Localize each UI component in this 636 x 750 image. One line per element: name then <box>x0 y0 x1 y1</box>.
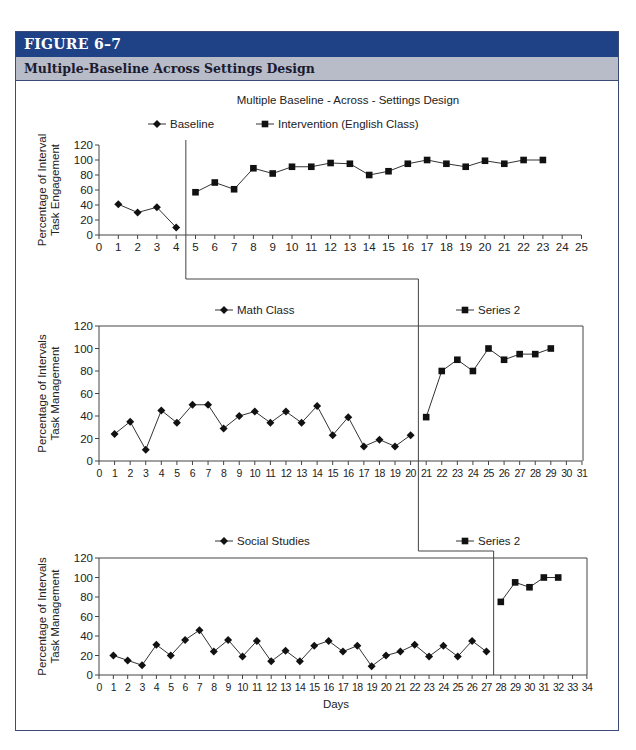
legend-diamond-icon <box>220 537 228 545</box>
x-tick-label: 10 <box>237 681 248 693</box>
data-point-marker <box>385 168 392 175</box>
x-tick-label: 26 <box>467 681 478 693</box>
x-tick-label: 9 <box>237 467 243 479</box>
data-point-marker <box>325 637 333 645</box>
x-tick-label: 22 <box>517 241 530 253</box>
data-point-marker <box>375 436 383 444</box>
legend-diamond-icon <box>153 120 161 128</box>
x-tick-label: 0 <box>96 241 102 253</box>
x-tick-label: 32 <box>553 681 564 693</box>
data-point-marker <box>498 599 505 606</box>
x-tick-label: 24 <box>438 681 449 693</box>
x-tick-label: 17 <box>338 681 349 693</box>
x-tick-label: 24 <box>556 241 569 253</box>
phase-change-line <box>186 140 494 675</box>
legend-diamond-icon <box>220 306 228 314</box>
x-tick-label: 16 <box>401 241 414 253</box>
x-tick-label: 15 <box>382 241 395 253</box>
x-tick-label: 26 <box>499 467 510 479</box>
data-point-marker <box>548 345 555 352</box>
legend-label: Social Studies <box>237 535 310 547</box>
x-tick-label: 21 <box>498 241 511 253</box>
legend-label: Intervention (English Class) <box>278 118 419 130</box>
y-axis-label: Percentage of IntervalsTask Management <box>36 557 61 676</box>
data-point-marker <box>501 356 508 363</box>
y-tick-label: 40 <box>80 199 93 211</box>
y-tick-label: 100 <box>74 154 93 166</box>
data-point-marker <box>282 408 290 416</box>
y-tick-label: 120 <box>74 320 93 332</box>
legend-square-icon <box>462 538 469 545</box>
y-tick-label: 60 <box>80 388 93 400</box>
x-tick-label: 25 <box>483 467 494 479</box>
data-point-marker <box>405 160 412 167</box>
legend-label: Series 2 <box>478 535 520 547</box>
x-tick-label: 13 <box>296 467 307 479</box>
x-tick-label: 25 <box>453 681 464 693</box>
x-tick-label: 16 <box>323 681 334 693</box>
data-point-marker <box>192 189 199 196</box>
data-point-marker <box>439 642 447 650</box>
x-tick-label: 6 <box>190 467 196 479</box>
x-tick-label: 15 <box>327 467 338 479</box>
data-point-marker <box>347 160 354 167</box>
data-point-marker <box>282 647 290 655</box>
x-tick-label: 28 <box>530 467 541 479</box>
x-tick-label: 2 <box>125 681 131 693</box>
data-point-marker <box>532 351 539 358</box>
x-tick-label: 14 <box>363 241 376 253</box>
x-tick-label: 24 <box>468 467 479 479</box>
y-tick-label: 40 <box>80 630 93 642</box>
data-point-marker <box>353 642 361 650</box>
y-tick-label: 120 <box>74 552 93 564</box>
x-tick-label: 31 <box>577 467 588 479</box>
legend-label: Baseline <box>170 118 214 130</box>
data-point-marker <box>540 157 547 164</box>
data-point-marker <box>308 163 315 170</box>
x-tick-label: 3 <box>143 467 149 479</box>
data-point-marker <box>251 408 259 416</box>
x-tick-label: 22 <box>409 681 420 693</box>
legend-label: Series 2 <box>478 304 520 316</box>
data-point-marker <box>541 574 548 581</box>
x-tick-label: 4 <box>159 467 165 479</box>
data-point-marker <box>470 368 477 375</box>
x-tick-label: 17 <box>421 241 434 253</box>
x-tick-label: 7 <box>205 467 211 479</box>
x-tick-label: 11 <box>252 681 262 693</box>
x-tick-label: 25 <box>575 241 588 253</box>
x-tick-label: 29 <box>546 467 557 479</box>
x-tick-label: 8 <box>221 467 227 479</box>
x-tick-label: 13 <box>280 681 291 693</box>
data-point-marker <box>289 163 296 170</box>
data-point-marker <box>152 641 160 649</box>
x-tick-label: 13 <box>344 241 357 253</box>
legend-square-icon <box>262 121 269 128</box>
x-tick-label: 9 <box>269 241 275 253</box>
y-tick-label: 100 <box>74 572 93 584</box>
multiple-baseline-chart: Multiple Baseline - Across - Settings De… <box>0 0 636 750</box>
data-point-marker <box>382 652 390 660</box>
y-tick-label: 40 <box>80 410 93 422</box>
x-tick-label: 27 <box>481 681 492 693</box>
x-tick-label: 20 <box>405 467 416 479</box>
data-point-marker <box>339 648 347 656</box>
x-tick-label: 27 <box>514 467 525 479</box>
x-tick-label: 0 <box>96 681 102 693</box>
data-point-marker <box>138 661 146 669</box>
y-tick-label: 100 <box>74 343 93 355</box>
data-point-marker <box>485 345 492 352</box>
x-tick-label: 6 <box>182 681 188 693</box>
x-tick-label: 20 <box>479 241 492 253</box>
x-tick-label: 12 <box>324 241 337 253</box>
x-tick-label: 4 <box>154 681 160 693</box>
x-tick-label: 7 <box>197 681 203 693</box>
x-tick-label: 14 <box>295 681 306 693</box>
data-point-marker <box>204 401 212 409</box>
data-point-marker <box>269 170 276 177</box>
data-point-marker <box>266 419 274 427</box>
x-tick-label: 34 <box>582 681 593 693</box>
data-point-marker <box>360 442 368 450</box>
data-point-marker <box>368 662 376 670</box>
x-tick-label: 4 <box>173 241 180 253</box>
